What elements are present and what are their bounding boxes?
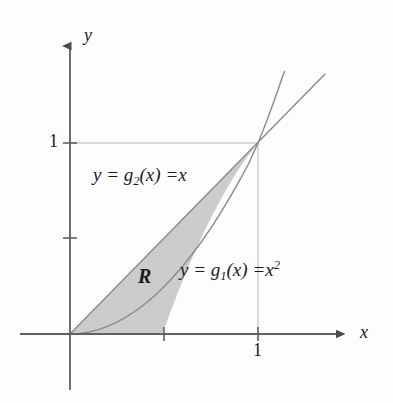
label-g1-superscript: 2 [274,258,280,272]
x-tick-label-1: 1 [253,340,262,361]
label-g1-eq1: = [193,259,206,280]
curve-line-y-equals-x [70,74,325,334]
region-label-R: R [138,265,151,288]
y-tick-label-1: 1 [49,131,58,152]
label-g2-eq2: = [165,164,178,185]
label-g2-arg: (x) [140,164,161,185]
label-g2-fn: g [124,164,134,185]
plot-canvas [0,0,393,403]
label-g1-expr: x [265,259,273,280]
label-line-g2: y = g2(x) =x [93,164,187,189]
label-g2-eq1: = [106,164,119,185]
x-axis-label: x [360,322,368,343]
y-axis-label: y [84,25,92,46]
label-g1-fn: g [211,259,221,280]
label-g1-eq2: = [252,259,265,280]
figure-container: y x 1 1 y = g2(x) =x y = g1(x) =x2 R [0,0,393,403]
label-g1-arg: (x) [227,259,248,280]
label-g2-expr: x [178,164,186,185]
label-parabola-g1: y = g1(x) =x2 [180,258,280,284]
